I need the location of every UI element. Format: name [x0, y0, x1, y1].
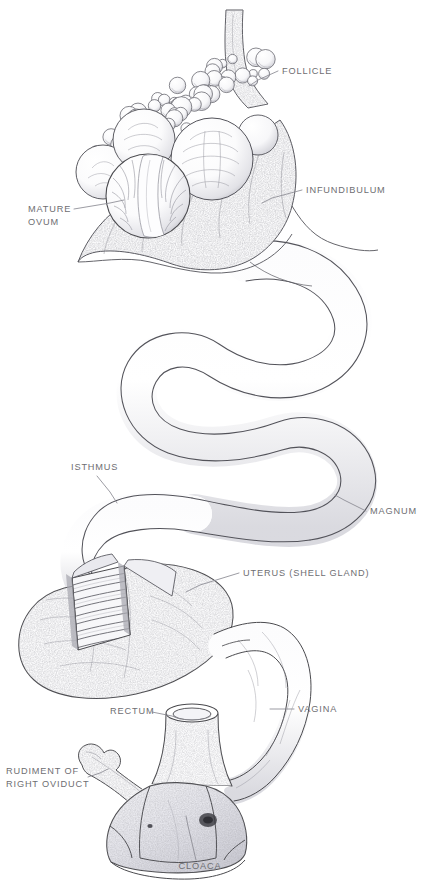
- label-line: RUDIMENT OF: [6, 766, 79, 776]
- label-line: CLOACA: [179, 861, 222, 871]
- anatomical-figure: FOLLICLEINFUNDIBULUMMATUREOVUMISTHMUSMAG…: [0, 0, 446, 882]
- label-rectum: RECTUM: [110, 706, 154, 716]
- label-line: MAGNUM: [370, 506, 417, 516]
- label-line: ISTHMUS: [71, 462, 118, 472]
- label-line: MATURE: [28, 204, 71, 214]
- label-line: RIGHT OVIDUCT: [6, 779, 89, 789]
- label-line: VAGINA: [298, 704, 337, 714]
- follicle: [256, 50, 275, 69]
- follicle: [169, 77, 185, 93]
- follicle: [219, 77, 235, 93]
- label-follicle: FOLLICLE: [282, 66, 332, 76]
- label-line: FOLLICLE: [282, 66, 332, 76]
- label-line: OVUM: [28, 217, 59, 227]
- label-vagina: VAGINA: [298, 704, 337, 714]
- label-line: UTERUS (SHELL GLAND): [243, 568, 369, 578]
- label-magnum: MAGNUM: [370, 506, 417, 516]
- label-isthmus: ISTHMUS: [71, 462, 118, 472]
- label-line: RECTUM: [110, 706, 154, 716]
- label-cloaca: CLOACA: [179, 861, 222, 871]
- label-line: INFUNDIBULUM: [306, 185, 386, 195]
- reproductive-tract-diagram: FOLLICLEINFUNDIBULUMMATUREOVUMISTHMUSMAG…: [0, 0, 446, 882]
- follicle: [228, 54, 237, 63]
- label-uterus: UTERUS (SHELL GLAND): [243, 568, 369, 578]
- label-infundibulum: INFUNDIBULUM: [306, 185, 386, 195]
